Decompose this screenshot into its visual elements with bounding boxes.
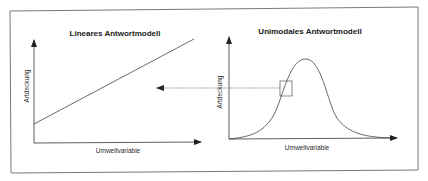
left-panel: Lineares Antwortmodell Artdeckung Umwelt… [23, 29, 201, 154]
unimodal-response-curve [229, 59, 390, 139]
right-panel-title: Unimodales Antwortmodell [258, 27, 361, 36]
left-x-axis-label: Umweltvariable [96, 147, 141, 154]
right-y-axis-label: Artdeckung [216, 75, 224, 108]
right-x-axis [229, 138, 397, 139]
left-panel-title: Lineares Antwortmodell [70, 29, 161, 38]
left-y-axis-label: Artdeckung [23, 69, 31, 102]
linear-response-line [34, 39, 194, 124]
left-x-axis [34, 142, 201, 143]
right-x-axis-label: Umweltvariable [285, 144, 330, 151]
diagram-canvas: Lineares Antwortmodell Artdeckung Umwelt… [0, 0, 428, 181]
right-panel: Unimodales Antwortmodell Artdeckung Umwe… [216, 27, 397, 151]
